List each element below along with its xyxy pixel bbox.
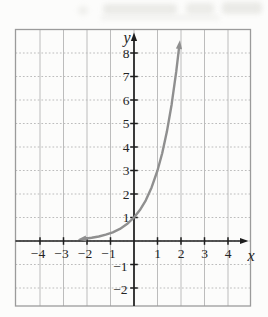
y-axis-label: y bbox=[121, 29, 131, 47]
scanned-page: −4−3−2−1123412345678−1−2yx bbox=[0, 0, 268, 317]
y-tick-label: 3 bbox=[123, 163, 130, 178]
x-tick-label: −2 bbox=[78, 246, 92, 261]
y-tick-label: 5 bbox=[123, 116, 130, 131]
y-tick-label: 7 bbox=[123, 69, 130, 84]
x-axis-arrowhead bbox=[240, 238, 249, 244]
y-tick-label: 4 bbox=[123, 140, 130, 155]
x-tick-label: 1 bbox=[154, 246, 161, 261]
y-tick-label-negative: −2 bbox=[113, 282, 127, 297]
y-tick-label: 2 bbox=[123, 187, 130, 202]
x-tick-label: 2 bbox=[178, 246, 185, 261]
y-tick-label: 6 bbox=[123, 93, 130, 108]
x-tick-label: 4 bbox=[225, 246, 232, 261]
y-axis-arrowhead bbox=[131, 33, 137, 42]
graph-svg: −4−3−2−1123412345678−1−2yx bbox=[0, 0, 268, 317]
x-tick-label: −3 bbox=[54, 246, 69, 261]
x-axis-label: x bbox=[247, 247, 255, 264]
x-tick-label: −4 bbox=[31, 246, 46, 261]
x-tick-label: 3 bbox=[201, 246, 208, 261]
y-tick-label-negative: −1 bbox=[113, 259, 127, 274]
y-tick-label: 8 bbox=[123, 46, 130, 61]
